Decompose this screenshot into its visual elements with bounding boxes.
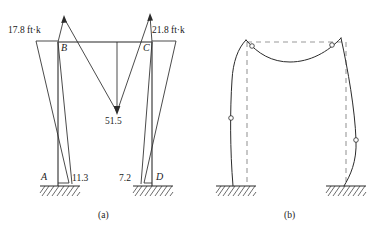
support-right-fixed <box>326 186 366 196</box>
beam-moment-right-ascent <box>117 16 150 112</box>
undeformed-frame-dashed <box>247 42 346 186</box>
deflected-frame-curves <box>231 38 356 186</box>
inflection-column-left-icon <box>229 116 234 121</box>
support-left-hatching <box>216 186 256 196</box>
arrowhead-C-peak <box>147 13 153 21</box>
figure-root: 17.8 ft·k 21.8 ft·k 51.5 11.3 7.2 A B C … <box>0 0 379 236</box>
caption-panel-b: (b) <box>284 210 295 220</box>
joint-label-A: A <box>41 172 47 182</box>
inflection-point-markers <box>229 43 359 143</box>
inflection-beam-right-icon <box>330 43 335 48</box>
beam-moment-left-descent <box>64 18 117 112</box>
inflection-beam-left-icon <box>250 44 255 49</box>
joint-label-C: C <box>143 43 150 53</box>
moment-label-A-base: 11.3 <box>72 174 88 184</box>
column-A-moment-inner <box>58 42 72 184</box>
column-D-moment-outer <box>144 41 176 183</box>
moment-label-C-top: 21.8 ft·k <box>152 26 185 36</box>
joint-label-D: D <box>156 172 163 182</box>
moment-label-B-top: 17.8 ft·k <box>8 26 41 36</box>
moment-label-D-base: 7.2 <box>119 174 131 184</box>
deflected-column-left <box>231 40 246 186</box>
arrowhead-midspan <box>114 106 121 115</box>
column-A-moment-outer <box>36 41 69 183</box>
column-D-moment-inner <box>141 42 152 184</box>
panel-b-deflected-shape: (b) <box>200 0 379 236</box>
support-A-hatching <box>40 186 80 196</box>
moment-arrowheads <box>61 13 153 115</box>
support-A-fixed <box>40 186 80 196</box>
panel-a-moment-diagram: 17.8 ft·k 21.8 ft·k 51.5 11.3 7.2 A B C … <box>0 0 200 236</box>
moment-label-midspan: 51.5 <box>105 117 122 127</box>
arrowhead-B-peak <box>61 15 67 23</box>
joint-label-B: B <box>61 43 67 53</box>
support-D-hatching <box>133 186 173 196</box>
deflected-column-right <box>341 38 356 186</box>
support-left-fixed <box>216 186 256 196</box>
inflection-column-right-icon <box>354 138 359 143</box>
caption-panel-a: (a) <box>98 210 109 220</box>
frame-structure <box>58 42 152 186</box>
deflected-shape-svg <box>200 0 379 236</box>
support-right-hatching <box>326 186 366 196</box>
support-D-fixed <box>133 186 173 196</box>
